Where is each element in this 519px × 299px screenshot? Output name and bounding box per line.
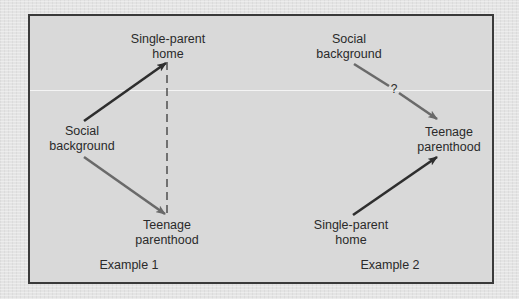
node-label-line: Teenage [135, 218, 198, 233]
node-label-line: Single-parent [131, 32, 205, 47]
node-label-line: parenthood [417, 140, 480, 155]
node-teenage-parenthood-ex1: Teenage parenthood [135, 218, 198, 248]
node-label-line: home [131, 47, 205, 62]
node-teenage-parenthood-ex2: Teenage parenthood [417, 125, 480, 155]
node-label-line: home [314, 233, 388, 248]
arrow-social-to-teen-ex1 [84, 157, 165, 214]
node-label-line: Single-parent [314, 218, 388, 233]
arrow-q-to-teen-ex2 [399, 93, 437, 119]
arrow-social-to-singleparent-ex1 [84, 63, 166, 121]
node-social-background-ex1: Social background [49, 124, 114, 154]
node-label-line: Teenage [417, 125, 480, 140]
arrow-social-to-q-ex2 [354, 64, 389, 86]
node-label-line: background [49, 139, 114, 154]
node-single-parent-home-ex1: Single-parent home [131, 32, 205, 62]
node-label-line: background [316, 47, 381, 62]
arrow-singleparent-to-teen-ex2 [353, 157, 437, 215]
node-single-parent-home-ex2: Single-parent home [314, 218, 388, 248]
node-label-line: Social [49, 124, 114, 139]
caption-example-1: Example 1 [99, 258, 158, 272]
node-label-line: Social [316, 32, 381, 47]
node-social-background-ex2: Social background [316, 32, 381, 62]
caption-example-2: Example 2 [360, 258, 419, 272]
node-label-line: parenthood [135, 233, 198, 248]
question-mark-label: ? [391, 82, 398, 97]
